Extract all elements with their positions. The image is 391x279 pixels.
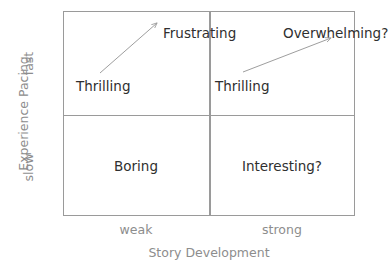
quadrant-bottom-right-outcome-label: Interesting?	[209, 160, 355, 174]
quadrant-top-right-origin-label: Thrilling	[215, 80, 269, 94]
quadrant-diagram: Frustrating Thrilling Overwhelming? Thri…	[0, 0, 391, 279]
quadrant-top-right: Overwhelming? Thrilling	[209, 11, 355, 115]
quadrant-top-right-outcome-label: Overwhelming?	[283, 27, 388, 41]
quadrant-bottom-right: Interesting?	[209, 115, 355, 216]
y-axis-tick-fast: fast	[21, 34, 36, 94]
quadrant-bottom-left: Boring	[63, 115, 209, 216]
quadrant-bottom-left-outcome-label: Boring	[63, 160, 209, 174]
x-axis-tick-strong: strong	[209, 222, 355, 237]
y-axis-tick-slow: slow	[21, 138, 36, 198]
quadrant-top-left: Frustrating Thrilling	[63, 11, 209, 115]
x-axis-title: Story Development	[63, 245, 355, 260]
x-axis-tick-weak: weak	[63, 222, 209, 237]
quadrant-top-left-origin-label: Thrilling	[76, 80, 130, 94]
